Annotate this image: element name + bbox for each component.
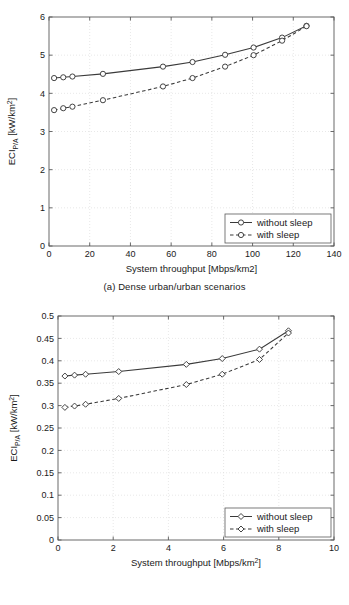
x-axis-title: System throughput [Mbps/km2] bbox=[126, 263, 257, 274]
x-axis-title: System throughput [Mbps/km2] bbox=[131, 557, 261, 568]
data-point-marker bbox=[51, 75, 56, 80]
data-point-marker bbox=[238, 220, 243, 225]
y-tick-label: 0.35 bbox=[36, 378, 54, 388]
data-point-marker bbox=[51, 108, 56, 113]
chart-b-svg: 024681000.050.10.150.20.250.30.350.40.45… bbox=[0, 300, 349, 605]
data-point-marker bbox=[222, 64, 227, 69]
data-point-marker bbox=[251, 53, 256, 58]
y-tick-label: 2 bbox=[40, 165, 45, 175]
y-axis-title-unit: [kW/km bbox=[8, 401, 19, 435]
y-axis-title-unit: [kW/km bbox=[6, 104, 17, 138]
y-tick-label: 0.45 bbox=[36, 334, 54, 344]
x-tick-label: 2 bbox=[111, 543, 116, 553]
data-point-marker bbox=[70, 74, 75, 79]
y-tick-label: 0.5 bbox=[41, 311, 54, 321]
data-point-marker bbox=[279, 38, 284, 43]
y-tick-label: 0.05 bbox=[36, 513, 54, 523]
data-point-marker bbox=[251, 45, 256, 50]
data-point-marker bbox=[190, 75, 195, 80]
y-tick-label: 0.1 bbox=[41, 490, 54, 500]
legend[interactable]: without sleepwith sleep bbox=[225, 214, 331, 243]
x-tick-label: 40 bbox=[125, 249, 135, 259]
x-tick-label: 60 bbox=[166, 249, 176, 259]
y-tick-label: 3 bbox=[40, 127, 45, 137]
data-point-marker bbox=[238, 232, 243, 237]
y-axis-title-subscript: P/A bbox=[12, 138, 19, 149]
y-tick-label: 0.2 bbox=[41, 446, 54, 456]
data-point-marker bbox=[70, 104, 75, 109]
chart-a-svg: 0204060801001201400123456System throughp… bbox=[0, 0, 349, 300]
y-axis-title: ECIP/A [kW/km2] bbox=[6, 98, 19, 166]
data-point-marker bbox=[160, 64, 165, 69]
x-axis-title-main: System throughput [Mbps/km bbox=[131, 557, 255, 568]
x-tick-label: 120 bbox=[286, 249, 301, 259]
data-point-marker bbox=[190, 59, 195, 64]
x-tick-label: 4 bbox=[166, 543, 171, 553]
x-tick-label: 20 bbox=[85, 249, 95, 259]
x-tick-label: 0 bbox=[46, 249, 51, 259]
y-tick-label: 0 bbox=[40, 241, 45, 251]
x-axis-title-close: ] bbox=[258, 557, 261, 568]
legend-label-0: without sleep bbox=[256, 511, 312, 522]
data-point-marker bbox=[160, 84, 165, 89]
y-axis-title-main: ECI bbox=[6, 149, 17, 165]
y-tick-label: 0.15 bbox=[36, 468, 54, 478]
legend[interactable]: without sleepwith sleep bbox=[225, 508, 331, 537]
y-tick-label: 4 bbox=[40, 89, 45, 99]
y-tick-label: 1 bbox=[40, 203, 45, 213]
figure-container: 0204060801001201400123456System throughp… bbox=[0, 0, 349, 605]
y-tick-label: 5 bbox=[40, 50, 45, 60]
caption-a: (a) Dense urban/urban scenarios bbox=[0, 281, 349, 292]
data-point-marker bbox=[222, 52, 227, 57]
data-point-marker bbox=[100, 98, 105, 103]
legend-label-1: with sleep bbox=[256, 523, 299, 534]
x-tick-label: 10 bbox=[329, 543, 339, 553]
x-tick-label: 80 bbox=[207, 249, 217, 259]
legend-label-0: without sleep bbox=[256, 217, 312, 228]
y-axis-title-subscript: P/A bbox=[14, 435, 21, 446]
x-tick-label: 0 bbox=[55, 543, 60, 553]
y-axis-title-close: ] bbox=[8, 394, 19, 397]
y-tick-label: 0 bbox=[49, 535, 54, 545]
data-point-marker bbox=[100, 71, 105, 76]
x-tick-label: 8 bbox=[276, 543, 281, 553]
y-axis-title-close: ] bbox=[6, 98, 17, 101]
y-tick-label: 6 bbox=[40, 12, 45, 22]
data-point-marker bbox=[304, 24, 309, 29]
y-axis-title: ECIP/A [kW/km2] bbox=[8, 394, 21, 462]
data-point-marker bbox=[61, 106, 66, 111]
x-tick-label: 140 bbox=[326, 249, 341, 259]
legend-label-1: with sleep bbox=[256, 229, 299, 240]
chart-panel-b: 024681000.050.10.150.20.250.30.350.40.45… bbox=[0, 300, 349, 605]
y-tick-label: 0.4 bbox=[41, 356, 54, 366]
y-axis-title-main: ECI bbox=[8, 446, 19, 462]
x-tick-label: 100 bbox=[245, 249, 260, 259]
data-point-marker bbox=[61, 75, 66, 80]
y-tick-label: 0.25 bbox=[36, 423, 54, 433]
y-tick-label: 0.3 bbox=[41, 401, 54, 411]
chart-panel-a: 0204060801001201400123456System throughp… bbox=[0, 0, 349, 300]
x-tick-label: 6 bbox=[221, 543, 226, 553]
